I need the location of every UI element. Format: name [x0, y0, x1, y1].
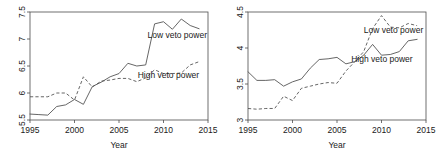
y-tick-label: 6: [17, 90, 27, 95]
series-annotation-low-veto-power: Low veto power: [147, 30, 207, 40]
x-axis-title: Year: [328, 140, 345, 150]
x-tick-label: 2010: [154, 125, 173, 135]
chart-panel-right: 1995200020052010201533.544.5YearLow veto…: [218, 0, 436, 156]
y-tick-label: 3.5: [235, 78, 245, 90]
series-annotation-high-veto-power: High veto power: [351, 54, 413, 64]
x-tick-label: 2000: [283, 125, 302, 135]
x-tick-label: 2005: [110, 125, 129, 135]
y-tick-label: 4: [235, 45, 245, 50]
x-tick-label: 2015: [199, 125, 218, 135]
plot-frame: [30, 12, 208, 120]
x-axis-title: Year: [110, 140, 127, 150]
left-chart-svg: 199520002005201020155.566.577.5YearLow v…: [0, 0, 218, 156]
x-tick-label: 2000: [65, 125, 84, 135]
y-tick-label: 7: [17, 36, 27, 41]
series-annotation-high-veto-power: High veto power: [138, 70, 200, 80]
y-tick-label: 3: [235, 117, 245, 122]
figure-two-panel-line-charts: 199520002005201020155.566.577.5YearLow v…: [0, 0, 436, 156]
right-chart-svg: 1995200020052010201533.544.5YearLow veto…: [218, 0, 436, 156]
y-tick-label: 7.5: [17, 6, 27, 18]
x-tick-label: 2005: [328, 125, 347, 135]
y-tick-label: 5.5: [17, 114, 27, 126]
chart-panel-left: 199520002005201020155.566.577.5YearLow v…: [0, 0, 218, 156]
y-tick-label: 6.5: [17, 60, 27, 72]
x-tick-label: 2010: [372, 125, 391, 135]
x-tick-label: 1995: [239, 125, 258, 135]
series-annotation-low-veto-power: Low veto power: [364, 25, 424, 35]
series-line-high-veto-power: [30, 62, 199, 100]
x-tick-label: 2015: [417, 125, 436, 135]
y-tick-label: 4.5: [235, 6, 245, 18]
